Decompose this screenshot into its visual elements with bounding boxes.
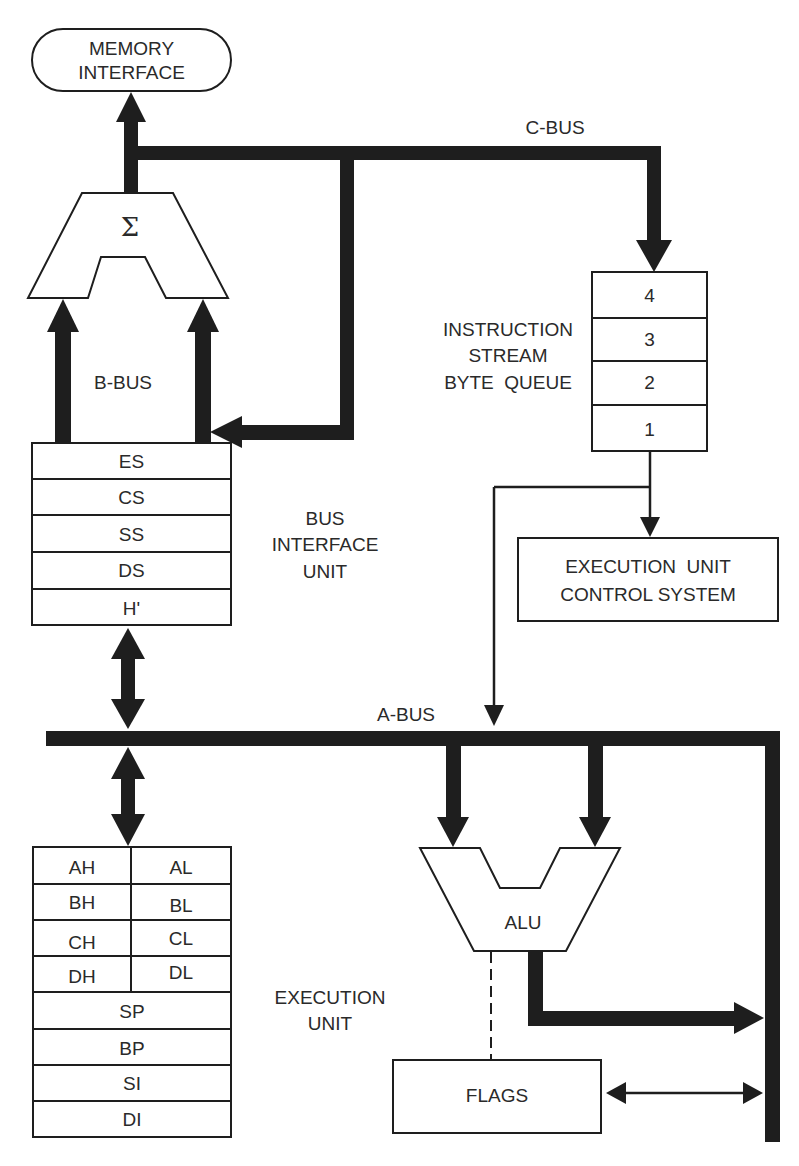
adder-unit — [28, 193, 228, 298]
segment-register-h-prime: H' — [32, 599, 231, 618]
biu-label-line2: INTERFACE — [255, 534, 395, 556]
c-bus-label: C-BUS — [515, 117, 595, 139]
eu-control-label-line1: EXECUTION UNIT — [518, 556, 778, 578]
biu-label-line3: UNIT — [255, 561, 395, 583]
segment-register-ss: SS — [32, 525, 231, 544]
register-bh: BH — [33, 893, 131, 912]
eu-label-line1: EXECUTION — [255, 987, 405, 1009]
segment-register-cs: CS — [32, 488, 231, 507]
queue-label-line2: STREAM — [428, 345, 588, 367]
queue-slot-3: 3 — [592, 330, 707, 349]
a-bus-label: A-BUS — [366, 704, 446, 726]
adder-to-memory-arrow — [116, 92, 146, 196]
a-bus-gp-double-arrow — [111, 747, 145, 846]
queue-label-line1: INSTRUCTION — [428, 319, 588, 341]
flags-label: FLAGS — [393, 1085, 601, 1107]
biu-a-bus-double-arrow — [111, 628, 145, 729]
eu-label-line2: UNIT — [255, 1013, 405, 1035]
a-bus-right-riser — [765, 731, 780, 1142]
register-sp: SP — [33, 1002, 231, 1021]
queue-label-line3: BYTE QUEUE — [428, 372, 588, 394]
b-bus-left-arrow — [47, 299, 79, 443]
register-bp: BP — [33, 1039, 231, 1058]
segment-register-ds: DS — [32, 561, 231, 580]
register-si: SI — [33, 1074, 231, 1093]
eu-control-label-line2: CONTROL SYSTEM — [518, 584, 778, 606]
register-di: DI — [33, 1110, 231, 1129]
a-bus-line — [46, 731, 780, 746]
register-al: AL — [131, 858, 231, 877]
alu-label: ALU — [478, 912, 568, 934]
eu-control-system-box — [518, 538, 778, 621]
flags-a-bus-double-arrow — [606, 1082, 763, 1104]
a-bus-to-alu-right-arrow — [579, 746, 611, 847]
register-ah: AH — [33, 858, 131, 877]
queue-slot-1: 1 — [592, 420, 707, 439]
b-bus-right-arrow — [187, 299, 219, 443]
c-bus-line — [124, 146, 661, 160]
register-dl: DL — [131, 963, 231, 982]
register-ch: CH — [33, 933, 131, 952]
a-bus-to-alu-left-arrow — [437, 746, 469, 847]
queue-to-a-bus-arrowhead — [484, 705, 504, 726]
queue-to-eu-control-arrowhead — [640, 517, 660, 537]
register-bl: BL — [131, 896, 231, 915]
c-bus-to-b-bus-arrow — [210, 146, 354, 448]
biu-label-line1: BUS — [255, 508, 395, 530]
b-bus-label: B-BUS — [78, 372, 168, 394]
queue-slot-2: 2 — [592, 373, 707, 392]
memory-interface-label-line1: MEMORY — [32, 38, 231, 60]
segment-register-es: ES — [32, 452, 231, 471]
c-bus-to-queue-arrow — [636, 146, 672, 272]
register-dh: DH — [33, 967, 131, 986]
adder-symbol: Σ — [100, 216, 160, 238]
register-cl: CL — [131, 929, 231, 948]
memory-interface-label-line2: INTERFACE — [32, 62, 231, 84]
alu-output-arrow — [528, 951, 764, 1034]
queue-slot-4: 4 — [592, 286, 707, 305]
alu-unit — [420, 848, 620, 951]
